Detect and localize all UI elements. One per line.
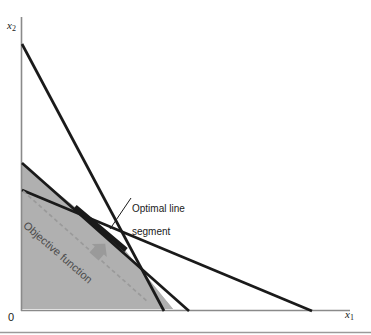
y-axis-label: x2 <box>7 20 16 31</box>
plot-canvas <box>0 0 371 335</box>
x-axis-label: x1 <box>345 309 354 320</box>
optimal-line-segment-label: Optimal line segment <box>132 191 185 249</box>
origin-label: 0 <box>8 312 14 323</box>
optimal-line-segment-label-line2: segment <box>132 226 185 238</box>
x-axis-label-subscript: 1 <box>350 313 354 322</box>
optimal-line-segment-label-line1: Optimal line <box>132 203 185 215</box>
linear-programming-figure: x2 x1 0 Optimal line segment Objective f… <box>0 0 371 335</box>
y-axis-label-subscript: 2 <box>12 24 16 33</box>
